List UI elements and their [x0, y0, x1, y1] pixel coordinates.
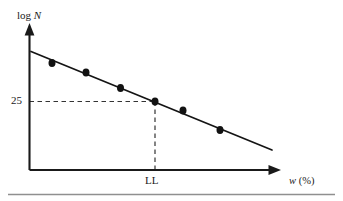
- data-point: [180, 106, 187, 114]
- chart-figure: log N w (%) 25 LL: [0, 0, 343, 201]
- data-point-intersection: [152, 97, 159, 105]
- y-axis-label-variable: N: [34, 9, 41, 21]
- data-point: [117, 84, 124, 92]
- data-point: [217, 126, 224, 134]
- x-axis-label-suffix: (%): [296, 175, 314, 186]
- x-axis-label: w (%): [289, 176, 314, 187]
- x-axis-tick-label-ll: LL: [145, 175, 158, 186]
- x-axis-label-variable: w: [289, 175, 296, 186]
- y-axis-arrowhead: [25, 23, 35, 36]
- y-axis-label: log N: [17, 10, 41, 21]
- data-point: [49, 59, 56, 67]
- data-point: [83, 68, 90, 76]
- y-axis-label-prefix: log: [17, 9, 34, 21]
- chart-canvas: [0, 0, 343, 201]
- x-axis-arrowhead: [269, 165, 282, 175]
- y-axis-tick-label-25: 25: [11, 95, 22, 106]
- best-fit-trend-line: [31, 52, 272, 151]
